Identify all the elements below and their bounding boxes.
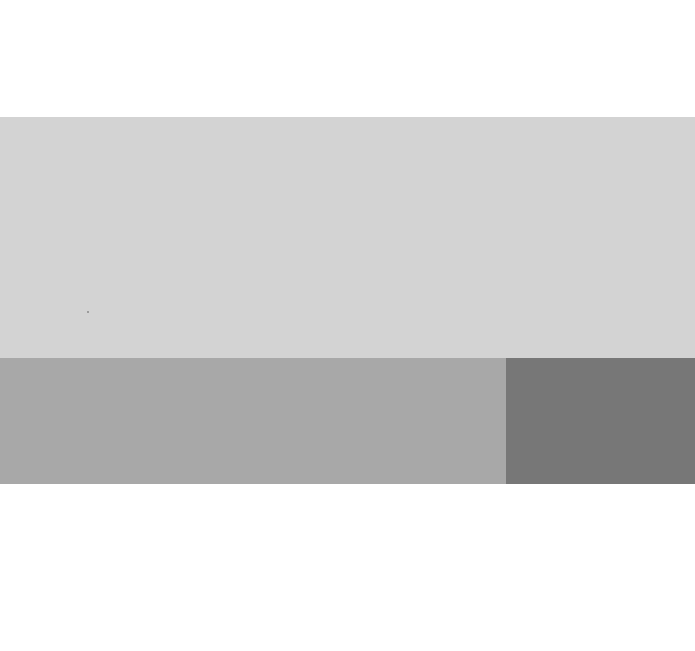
light-gray-swatch bbox=[0, 117, 695, 358]
color-swatch-canvas bbox=[0, 0, 695, 651]
mid-gray-swatch bbox=[0, 358, 506, 484]
dark-gray-swatch bbox=[506, 358, 695, 484]
scan-speck bbox=[87, 311, 89, 313]
